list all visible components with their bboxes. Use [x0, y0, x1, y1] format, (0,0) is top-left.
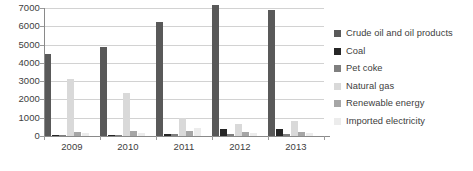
y-axis-tick-label: 7000	[18, 3, 40, 13]
bar-slot	[235, 8, 242, 136]
x-axis-tick-labels: 20092010201120122013	[44, 141, 324, 152]
x-axis-tick-label: 2013	[268, 141, 324, 152]
bar-slot	[268, 8, 275, 136]
legend-item-label: Imported electricity	[346, 117, 425, 126]
bar	[123, 93, 130, 136]
plot-wrapper: 01000200030004000500060007000 2009201020…	[0, 0, 336, 171]
bar	[194, 128, 201, 136]
x-axis-tick-label: 2012	[212, 141, 268, 152]
bar	[212, 5, 219, 136]
bar-groups	[44, 8, 324, 136]
bar	[268, 10, 275, 136]
bar-slot	[220, 8, 227, 136]
bar-group-2013	[268, 8, 324, 136]
bar-group-2011	[156, 8, 212, 136]
legend-item[interactable]: Pet coke	[334, 60, 473, 78]
bar-slot	[52, 8, 59, 136]
bar	[291, 121, 298, 136]
legend-swatch-natural-gas	[334, 83, 341, 90]
y-axis-tick-label: 2000	[18, 95, 40, 105]
bar-slot	[242, 8, 249, 136]
bar-slot	[115, 8, 122, 136]
legend-swatch-pet-coke	[334, 65, 341, 72]
bar-slot	[250, 8, 257, 136]
y-axis-tick-labels: 01000200030004000500060007000	[0, 8, 40, 136]
bar-group-2012	[212, 8, 268, 136]
bar-slot	[212, 8, 219, 136]
bar	[100, 47, 107, 136]
bar-slot	[100, 8, 107, 136]
bar	[156, 22, 163, 136]
bar-group-2010	[100, 8, 156, 136]
x-axis-tick-label: 2010	[100, 141, 156, 152]
bar-slot	[179, 8, 186, 136]
bar-slot	[227, 8, 234, 136]
bar-slot	[283, 8, 290, 136]
y-axis-line	[44, 8, 45, 136]
bar-slot	[156, 8, 163, 136]
y-axis-tick-label: 5000	[18, 40, 40, 50]
bar-slot	[123, 8, 130, 136]
legend-item[interactable]: Coal	[334, 43, 473, 61]
bar-slot	[194, 8, 201, 136]
x-axis-tick-mark	[324, 136, 325, 140]
legend-item-label: Renewable energy	[346, 99, 424, 108]
bar-slot	[74, 8, 81, 136]
bar-group-2009	[44, 8, 100, 136]
bar	[67, 79, 74, 136]
legend-swatch-imported-electricity	[334, 118, 341, 125]
y-axis-tick-label: 6000	[18, 22, 40, 32]
bar	[220, 129, 227, 136]
bar-slot	[291, 8, 298, 136]
legend-item-label: Natural gas	[346, 82, 394, 91]
x-axis-tick-label: 2011	[156, 141, 212, 152]
bar-slot	[59, 8, 66, 136]
bar	[235, 124, 242, 136]
legend-item-label: Coal	[346, 47, 365, 56]
y-axis-tick-label: 4000	[18, 58, 40, 68]
legend-item[interactable]: Imported electricity	[334, 113, 473, 131]
y-axis-tick-mark	[40, 8, 44, 9]
y-axis-tick-mark	[40, 45, 44, 46]
x-axis-tick-mark	[212, 136, 213, 140]
bar-slot	[306, 8, 313, 136]
bar-slot	[44, 8, 51, 136]
bar	[44, 54, 51, 136]
bar-slot	[298, 8, 305, 136]
bar-slot	[130, 8, 137, 136]
chart-legend: Crude oil and oil productsCoalPet cokeNa…	[334, 25, 473, 130]
legend-swatch-coal	[334, 48, 341, 55]
x-axis-tick-mark	[100, 136, 101, 140]
x-axis-tick-label: 2009	[44, 141, 100, 152]
y-axis-tick-mark	[40, 99, 44, 100]
bar	[179, 118, 186, 136]
legend-item-label: Pet coke	[346, 64, 383, 73]
bar-slot	[138, 8, 145, 136]
y-axis-tick-label: 1000	[18, 113, 40, 123]
x-axis-tick-mark	[156, 136, 157, 140]
legend-item-label: Crude oil and oil products	[346, 29, 453, 38]
legend-item[interactable]: Natural gas	[334, 78, 473, 96]
legend-swatch-crude-oil	[334, 30, 341, 37]
y-axis-tick-label: 3000	[18, 76, 40, 86]
bar-chart: 01000200030004000500060007000 2009201020…	[0, 0, 473, 171]
y-axis-tick-mark	[40, 26, 44, 27]
x-axis-tick-mark	[268, 136, 269, 140]
bar-slot	[186, 8, 193, 136]
bar-slot	[171, 8, 178, 136]
bar-slot	[164, 8, 171, 136]
bar-slot	[82, 8, 89, 136]
bar-slot	[108, 8, 115, 136]
bar-slot	[67, 8, 74, 136]
x-axis-tick-mark	[44, 136, 45, 140]
y-axis-tick-mark	[40, 118, 44, 119]
y-axis-tick-mark	[40, 63, 44, 64]
bar	[276, 129, 283, 136]
bar-slot	[276, 8, 283, 136]
legend-item[interactable]: Renewable energy	[334, 95, 473, 113]
x-axis-line	[40, 136, 330, 137]
plot-area	[44, 8, 324, 136]
legend-item[interactable]: Crude oil and oil products	[334, 25, 473, 43]
legend-swatch-renewable-energy	[334, 100, 341, 107]
y-axis-tick-mark	[40, 81, 44, 82]
